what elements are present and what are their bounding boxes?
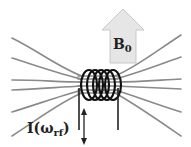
- double-headed-vertical-arrow-icon: [81, 108, 87, 145]
- current-label: I(ωrf): [27, 120, 70, 138]
- rf-coil-diagram: B0: [0, 0, 191, 147]
- solenoid-coil-icon: [81, 70, 121, 100]
